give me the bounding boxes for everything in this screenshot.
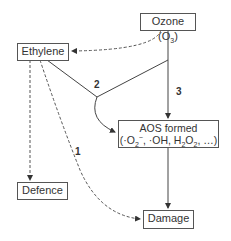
ethylene-label: Ethylene [22, 45, 65, 57]
defence-label: Defence [22, 184, 63, 196]
edge-ozone-ethylene [72, 30, 161, 51]
damage-label: Damage [148, 212, 190, 224]
node-ozone: Ozone (O3) [140, 13, 196, 31]
edge-ozone-junction [97, 60, 168, 97]
edge-ethylene-junction [47, 60, 97, 97]
aos-part: O [185, 134, 193, 146]
edge-label-1: 1 [75, 146, 81, 157]
node-ethylene: Ethylene [17, 43, 69, 61]
edge-label-2: 2 [94, 79, 100, 90]
edge-junction-aos [95, 97, 115, 132]
aos-sub: 2 [135, 141, 139, 148]
ozone-close: ) [174, 30, 178, 42]
aos-part: , ·OH, H [143, 134, 182, 146]
aos-species: (·O2−, ·OH, H2O2, …) [119, 134, 218, 146]
edge-label-3: 3 [176, 86, 182, 97]
aos-title: AOS formed [119, 122, 218, 134]
aos-part: (·O [120, 134, 135, 146]
node-damage: Damage [143, 210, 194, 229]
node-aos: AOS formed (·O2−, ·OH, H2O2, …) [118, 120, 219, 148]
aos-part: , …) [197, 134, 217, 146]
node-defence: Defence [17, 182, 68, 200]
